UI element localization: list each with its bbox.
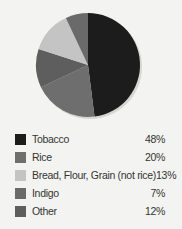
legend: Tobacco 48% Rice 20% Bread, Flour, Grain… [15,130,165,220]
legend-item-tobacco: Tobacco 48% [15,130,165,148]
swatch-bread [15,170,26,181]
legend-value: 48% [145,133,165,145]
legend-label: Other [32,205,145,217]
legend-item-rice: Rice 20% [15,148,165,166]
legend-label: Rice [32,151,145,163]
legend-value: 13% [156,169,176,181]
legend-item-bread: Bread, Flour, Grain (not rice) 13% [15,166,165,184]
pie-slice-tobacco [88,13,140,117]
legend-item-other: Other 12% [15,202,165,220]
legend-label: Bread, Flour, Grain (not rice) [32,169,156,181]
swatch-other [15,206,26,217]
legend-value: 12% [145,205,165,217]
swatch-tobacco [15,134,26,145]
legend-item-indigo: Indigo 7% [15,184,165,202]
legend-value: 20% [145,151,165,163]
swatch-rice [15,152,26,163]
legend-label: Indigo [32,187,150,199]
legend-value: 7% [150,187,165,199]
pie-graphic [33,10,143,120]
legend-label: Tobacco [32,133,145,145]
swatch-indigo [15,188,26,199]
pie-chart [33,10,143,120]
